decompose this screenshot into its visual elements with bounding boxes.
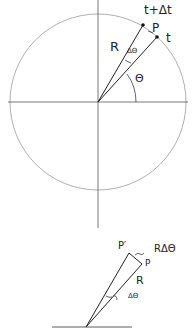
wedge-side-prime — [86, 253, 129, 327]
label-t: t — [166, 32, 171, 44]
label-theta: Θ — [135, 73, 144, 84]
arc-length-leader — [135, 253, 144, 255]
diagram-canvas — [0, 0, 196, 334]
circle-diagram — [8, 0, 188, 228]
label-r-bottom: R — [136, 275, 144, 286]
point-later — [141, 23, 145, 27]
point-p — [155, 35, 159, 39]
wedge-angle-arc — [106, 296, 112, 297]
wedge-diagram — [52, 253, 144, 327]
label-delta-theta: ΔΘ — [127, 48, 137, 55]
label-r: R — [110, 40, 119, 53]
label-p-bottom: P — [145, 259, 150, 268]
radius-line-later — [98, 25, 143, 102]
label-p: P — [152, 22, 159, 34]
label-arc-length: RΔΘ — [154, 244, 176, 254]
label-p-prime: P′ — [118, 241, 126, 251]
label-t-plus-dt: t+Δt — [144, 4, 172, 16]
label-delta-theta-bottom: ΔΘ — [128, 293, 138, 300]
delta-theta-arc — [125, 60, 131, 63]
